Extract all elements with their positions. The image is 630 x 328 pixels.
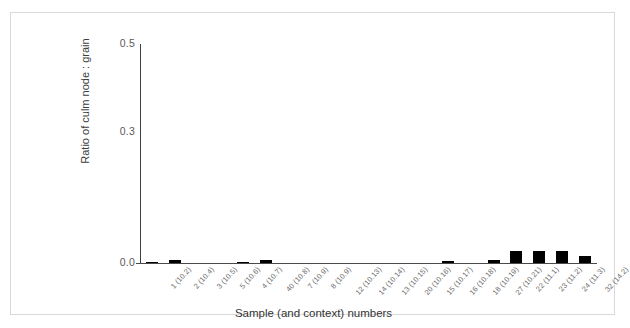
x-tick-label: 8 (10.9) bbox=[328, 265, 352, 291]
x-tick-label: 32 (14.2) bbox=[603, 265, 630, 294]
bar bbox=[510, 251, 522, 263]
x-tick-label: 5 (10.6) bbox=[237, 265, 261, 291]
y-axis-ticks: 0.00.30.5 bbox=[11, 13, 135, 316]
x-tick-label: 24 (11.3) bbox=[580, 265, 607, 293]
x-tick-label: 23 (11.2) bbox=[557, 265, 584, 293]
x-tick-label: 40 (10.8) bbox=[284, 265, 311, 294]
plot-area bbox=[141, 44, 596, 263]
x-tick-label: 4 (10.7) bbox=[260, 265, 284, 291]
x-axis-title: Sample (and context) numbers bbox=[11, 307, 616, 319]
y-tick-label: 0.3 bbox=[120, 125, 135, 137]
y-tick-label: 0.0 bbox=[120, 256, 135, 268]
x-tick-label: 1 (10.2) bbox=[169, 265, 193, 291]
bar bbox=[579, 256, 591, 263]
y-tick-mark bbox=[136, 263, 140, 264]
bar bbox=[556, 251, 568, 263]
bar bbox=[237, 262, 249, 263]
bar bbox=[260, 260, 272, 263]
y-axis-title: Ratio of culm node : grain bbox=[79, 21, 91, 181]
bar bbox=[146, 262, 158, 263]
bar bbox=[442, 261, 454, 263]
chart-figure: 0.00.30.5 Ratio of culm node : grain 1 (… bbox=[10, 12, 615, 315]
x-tick-label: 3 (10.5) bbox=[215, 265, 239, 291]
bar bbox=[169, 260, 181, 263]
bar bbox=[488, 260, 500, 263]
x-tick-label: 2 (10.4) bbox=[192, 265, 216, 291]
y-tick-label: 0.5 bbox=[120, 37, 135, 49]
x-axis-ticks: 1 (10.2)2 (10.4)3 (10.5)5 (10.6)4 (10.7)… bbox=[141, 265, 596, 313]
bar bbox=[533, 251, 545, 263]
